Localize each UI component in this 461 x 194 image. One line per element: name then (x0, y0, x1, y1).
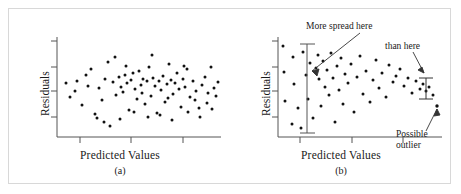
panel-b-x-axis-label: Predicted Values (230, 149, 452, 161)
annotation-leader-lines (312, 33, 440, 131)
panel-a-y-axis-label: Residuals (39, 71, 51, 116)
figure-frame: Residuals Predicted Values (a) (8, 8, 451, 184)
panel-b-caption: (b) (230, 165, 452, 176)
wide-spread-error-bar (300, 44, 315, 133)
annotation-than-here: than here (385, 41, 420, 51)
panel-b: More spread here than here Possible outl… (230, 9, 452, 185)
panel-a-scatter-points (65, 54, 220, 128)
panel-a-x-axis-label: Predicted Values (9, 149, 231, 161)
panel-b-axes (272, 37, 442, 143)
panel-b-scatter-points (282, 45, 439, 130)
panel-b-y-axis-label: Residuals (260, 71, 272, 116)
outlier-point (435, 104, 438, 107)
annotation-possible-outlier: Possible outlier (396, 129, 444, 150)
panel-a: Residuals Predicted Values (a) (9, 9, 231, 185)
panel-a-caption: (a) (9, 165, 231, 176)
annotation-more-spread-here: More spread here (306, 21, 372, 31)
